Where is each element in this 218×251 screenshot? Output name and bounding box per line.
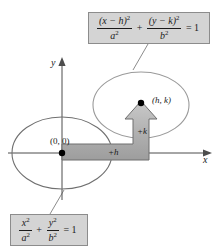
center-point-marker bbox=[138, 100, 144, 106]
translated-equation-text: (x − h)2 a2 + (y − k)2 b2 = 1 bbox=[97, 15, 201, 41]
standard-equals: = 1 bbox=[61, 225, 78, 235]
standard-right-denominator: b2 bbox=[47, 231, 59, 243]
translated-right-numerator: (y − k)2 bbox=[147, 15, 182, 28]
translated-left-denominator: a2 bbox=[97, 29, 132, 41]
standard-right-fraction: y2 b2 bbox=[47, 217, 59, 243]
y-axis-label: y bbox=[51, 57, 55, 68]
translated-left-numerator: (x − h)2 bbox=[97, 15, 132, 28]
y-axis-arrowhead bbox=[58, 57, 65, 66]
horizontal-shift-label: +h bbox=[108, 147, 119, 157]
translated-plus-operator: + bbox=[135, 23, 145, 33]
translated-right-denominator: b2 bbox=[147, 29, 182, 41]
standard-left-denominator: a2 bbox=[19, 231, 31, 243]
translated-equals: = 1 bbox=[184, 23, 201, 33]
ellipse-translation-figure: (x − h)2 a2 + (y − k)2 b2 = 1 x2 a2 + y2… bbox=[0, 0, 218, 251]
standard-equation-text: x2 a2 + y2 b2 = 1 bbox=[19, 217, 78, 243]
standard-left-numerator: x2 bbox=[19, 217, 31, 230]
origin-point-marker bbox=[59, 150, 65, 156]
standard-right-numerator: y2 bbox=[47, 217, 59, 230]
translated-right-fraction: (y − k)2 b2 bbox=[147, 15, 182, 41]
standard-left-fraction: x2 a2 bbox=[19, 217, 31, 243]
translated-left-fraction: (x − h)2 a2 bbox=[97, 15, 132, 41]
leader-line-translated bbox=[133, 44, 148, 70]
standard-equation-callout: x2 a2 + y2 b2 = 1 bbox=[10, 214, 88, 246]
origin-point-label: (0, 0) bbox=[50, 136, 70, 146]
x-axis-label: x bbox=[203, 154, 207, 165]
center-point-label: (h, k) bbox=[152, 95, 171, 105]
vertical-shift-label: +k bbox=[137, 126, 147, 136]
translated-equation-callout: (x − h)2 a2 + (y − k)2 b2 = 1 bbox=[88, 12, 210, 44]
standard-plus-operator: + bbox=[34, 225, 44, 235]
